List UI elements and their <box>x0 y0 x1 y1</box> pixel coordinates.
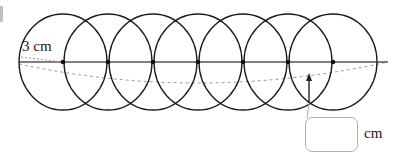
center-dot-5 <box>241 60 246 65</box>
center-dot-7 <box>331 60 336 65</box>
answer-input-box[interactable] <box>305 117 358 152</box>
center-dot-2 <box>106 60 111 65</box>
unit-label-cm: cm <box>364 126 382 141</box>
center-dot-4 <box>196 60 201 65</box>
circle-chain-figure: cm 3 cm <box>0 0 403 161</box>
center-dot-6 <box>286 60 291 65</box>
radius-label-3cm: 3 cm <box>22 39 52 54</box>
perspective-dashed-curve <box>19 62 388 83</box>
answer-arrow <box>306 73 312 103</box>
center-dot-3 <box>151 60 156 65</box>
center-dot-1 <box>61 60 66 65</box>
